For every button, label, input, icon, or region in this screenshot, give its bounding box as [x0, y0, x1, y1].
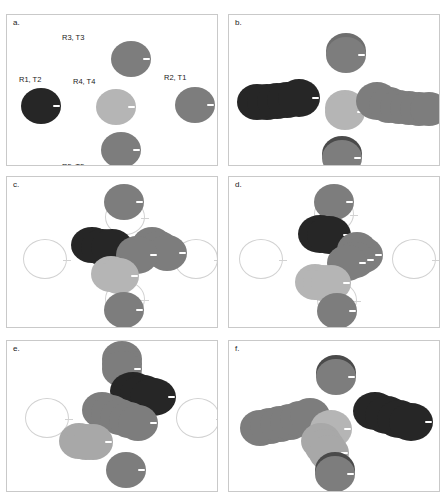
- disc-orientation-notch-icon: [138, 469, 145, 471]
- panel-c-stage: [7, 177, 217, 327]
- ghost-notch-icon: [65, 419, 73, 420]
- disc-orientation-notch-icon: [179, 252, 186, 254]
- disc-orientation-notch-icon: [150, 254, 157, 256]
- ghost-notch-icon: [63, 260, 71, 261]
- panel-c: c.: [6, 176, 218, 328]
- disc-mid-5: [118, 405, 158, 441]
- panel-f: f.: [228, 340, 440, 492]
- panel-label-c: c.: [13, 180, 19, 189]
- disc-orientation-notch-icon: [347, 473, 354, 475]
- disc-orientation-notch-icon: [136, 201, 143, 203]
- disc-orientation-notch-icon: [346, 201, 353, 203]
- panel-label-e: e.: [13, 344, 20, 353]
- panel-f-stage: [229, 341, 439, 491]
- disc-trail-top-2: [326, 37, 366, 73]
- disc-orientation-notch-icon: [53, 105, 60, 107]
- panel-b: b.: [228, 14, 440, 166]
- disc-orientation-notch-icon: [344, 428, 351, 430]
- disc-R4-T4: [96, 89, 136, 125]
- disc-orientation-notch-icon: [349, 310, 356, 312]
- panel-label-b: b.: [235, 18, 242, 27]
- ghost-circle-ghost-right: [176, 398, 218, 438]
- disc-orientation-notch-icon: [131, 275, 138, 277]
- disc-orientation-notch-icon: [207, 104, 214, 106]
- disc-trail-left-5: [278, 79, 320, 117]
- disc-orientation-notch-icon: [133, 149, 140, 151]
- disc-orientation-notch-icon: [150, 422, 157, 424]
- ghost-notch-icon: [141, 218, 149, 219]
- ghost-notch-icon: [279, 260, 287, 261]
- ghost-notch-icon: [214, 260, 218, 261]
- disc-annotation-r5-t5: R5, T5: [62, 162, 84, 166]
- figure-root: R3, T3R1, T2R4, T4R2, T1R5, T5a.b.c.d.e.…: [0, 0, 445, 501]
- disc-top-disc: [104, 184, 144, 220]
- panel-a: R3, T3R1, T2R4, T4R2, T1R5, T5a.: [6, 14, 218, 166]
- panel-e: e.: [6, 340, 218, 492]
- disc-bottom-disc: [317, 293, 357, 328]
- ghost-notch-icon: [350, 215, 358, 216]
- disc-orientation-notch-icon: [105, 441, 112, 443]
- disc-light-2: [99, 258, 139, 294]
- ghost-notch-icon: [432, 260, 440, 261]
- disc-top-disc: [316, 359, 356, 395]
- disc-orientation-notch-icon: [143, 58, 150, 60]
- panel-e-stage: [7, 341, 217, 491]
- disc-orientation-notch-icon: [367, 259, 374, 261]
- ghost-circle-ghost-left: [239, 239, 283, 279]
- disc-annotation-r4-t4: R4, T4: [73, 77, 95, 86]
- disc-trail-right-6: [410, 92, 440, 126]
- disc-orientation-notch-icon: [359, 262, 366, 264]
- disc-orientation-notch-icon: [168, 396, 175, 398]
- disc-orientation-notch-icon: [348, 376, 355, 378]
- panel-b-stage: [229, 15, 439, 165]
- ghost-circle-ghost-left: [23, 239, 67, 279]
- panel-d-stage: [229, 177, 439, 327]
- disc-orientation-notch-icon: [312, 97, 319, 99]
- panel-label-a: a.: [13, 18, 20, 27]
- disc-R3-T3: [111, 41, 151, 77]
- ghost-circle-ghost-right: [392, 239, 436, 279]
- disc-R1-T2: [21, 88, 61, 124]
- disc-orientation-notch-icon: [425, 421, 432, 423]
- disc-annotation-r1-t2: R1, T2: [19, 75, 41, 84]
- disc-R5-T5: [101, 132, 141, 166]
- disc-orientation-notch-icon: [354, 157, 361, 159]
- disc-orientation-notch-icon: [134, 368, 141, 370]
- disc-orientation-notch-icon: [136, 309, 143, 311]
- panel-d: d.: [228, 176, 440, 328]
- panel-label-f: f.: [235, 344, 239, 353]
- disc-bottom-disc: [106, 452, 146, 488]
- disc-orientation-notch-icon: [128, 106, 135, 108]
- disc-orientation-notch-icon: [343, 282, 350, 284]
- disc-orientation-notch-icon: [358, 54, 365, 56]
- disc-dark-4: [389, 403, 433, 441]
- panel-label-d: d.: [235, 180, 242, 189]
- disc-bottom-disc: [104, 292, 144, 328]
- ghost-notch-icon: [216, 419, 218, 420]
- disc-orientation-notch-icon: [375, 254, 382, 256]
- disc-bottom-disc: [315, 456, 355, 492]
- disc-light-3: [73, 424, 113, 460]
- ghost-notch-icon: [141, 300, 149, 301]
- disc-annotation-r3-t3: R3, T3: [62, 33, 84, 42]
- disc-R2-T1: [175, 87, 215, 123]
- disc-annotation-r2-t1: R2, T1: [164, 73, 186, 82]
- panel-a-stage: [7, 15, 217, 165]
